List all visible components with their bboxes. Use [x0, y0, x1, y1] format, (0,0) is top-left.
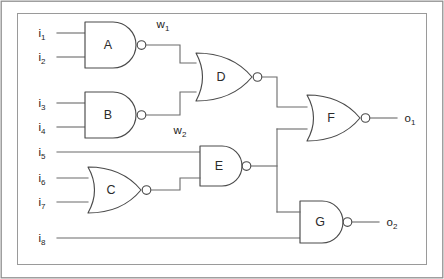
gate-F-label: F	[327, 111, 335, 125]
gate-C-bubble	[142, 186, 151, 195]
gate-D-bubble	[253, 73, 262, 82]
label-w1: w1	[156, 18, 170, 33]
output-labels: o1 o2	[387, 112, 416, 231]
input-labels: i1 i2 i3 i4 i5 i6 i7 i8	[38, 27, 46, 247]
gate-G-label: G	[315, 215, 325, 229]
label-i3: i3	[38, 97, 46, 112]
gate-E[interactable]: E	[200, 146, 251, 186]
label-i4: i4	[38, 121, 46, 136]
label-i5: i5	[38, 146, 46, 161]
gate-E-bubble	[242, 162, 251, 171]
internal-wire-labels: w1 w2	[156, 18, 187, 139]
gate-G[interactable]: G	[300, 201, 352, 243]
label-o2: o2	[387, 216, 398, 231]
wire-gate-D-to-gate-F	[262, 77, 307, 107]
gate-D[interactable]: D	[196, 53, 262, 101]
label-i2: i2	[38, 51, 46, 66]
label-i7: i7	[38, 196, 46, 211]
label-o1: o1	[405, 112, 416, 127]
gate-A-label: A	[104, 38, 113, 52]
gate-F[interactable]: F	[307, 95, 370, 141]
label-i1: i1	[38, 27, 46, 42]
label-w2: w2	[173, 124, 187, 139]
circuit-canvas: A B C D E F	[0, 0, 444, 279]
wire-w2-to-gate-D	[146, 92, 196, 115]
gate-C[interactable]: C	[88, 167, 151, 213]
wire-gate-C-to-gate-E	[151, 178, 200, 190]
gate-B-bubble	[137, 111, 146, 120]
figure-outer-border	[1, 1, 443, 278]
wire-w1-to-gate-D	[146, 45, 196, 63]
label-i6: i6	[38, 172, 46, 187]
gate-G-bubble	[343, 218, 352, 227]
gate-F-bubble	[361, 114, 370, 123]
gate-B-label: B	[104, 108, 112, 122]
gate-A[interactable]: A	[85, 22, 146, 68]
gate-A-bubble	[137, 41, 146, 50]
figure-inner-border	[18, 14, 427, 265]
output-wires	[352, 118, 397, 222]
gate-B[interactable]: B	[85, 92, 146, 138]
gate-E-label: E	[215, 159, 223, 173]
logic-circuit-figure: A B C D E F	[0, 0, 444, 279]
gate-D-label: D	[216, 70, 225, 84]
label-i8: i8	[38, 232, 46, 247]
gate-C-label: C	[106, 183, 115, 197]
